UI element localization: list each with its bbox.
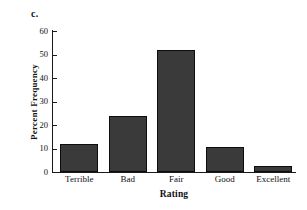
bar-chart-figure: c. Percent Frequency 0102030405060 Terri… [0,0,307,210]
bar [60,144,98,172]
x-tick-label: Fair [152,175,201,184]
bar-series: TerribleBadFairGoodExcellent [0,0,307,210]
bar [206,147,244,172]
x-tick-label: Excellent [249,175,298,184]
bar [157,50,195,172]
x-tick-label: Bad [104,175,153,184]
x-tick-label: Terrible [55,175,104,184]
bar [254,166,292,172]
x-axis-title: Rating [52,189,296,199]
bar [109,116,147,172]
x-tick-label: Good [201,175,250,184]
